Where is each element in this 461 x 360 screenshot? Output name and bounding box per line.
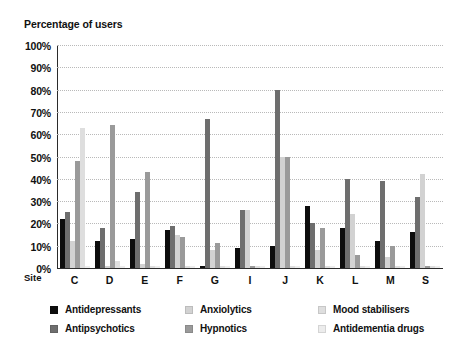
bar-group-i: I bbox=[232, 45, 267, 268]
bar bbox=[155, 266, 160, 268]
bar bbox=[330, 266, 335, 268]
bar-group-m: M bbox=[373, 45, 408, 268]
bars bbox=[127, 45, 162, 268]
y-tick-label: 80% bbox=[31, 85, 51, 97]
x-tick-label: L bbox=[352, 274, 358, 286]
x-tick-label: K bbox=[316, 274, 324, 286]
x-tick-label: J bbox=[282, 274, 288, 286]
bar-chart: Percentage of users 0%10%20%30%40%50%60%… bbox=[0, 0, 461, 360]
x-tick-label: F bbox=[177, 274, 183, 286]
bar-group-e: E bbox=[127, 45, 162, 268]
chart-legend: AntidepressantsAnxiolyticsMood stabilise… bbox=[50, 300, 450, 338]
bars bbox=[408, 45, 443, 268]
bar-group-f: F bbox=[162, 45, 197, 268]
bar bbox=[245, 210, 250, 268]
legend-item[interactable]: Antidepressants bbox=[50, 304, 185, 315]
y-tick-label: 40% bbox=[31, 174, 51, 186]
bar-group-l: L bbox=[338, 45, 373, 268]
bars bbox=[92, 45, 127, 268]
bar bbox=[110, 125, 115, 268]
bar-group-c: C bbox=[57, 45, 92, 268]
plot-area: 0%10%20%30%40%50%60%70%80%90%100% CDEFGI… bbox=[57, 45, 443, 268]
legend-item[interactable]: Mood stabilisers bbox=[318, 304, 450, 315]
legend-swatch-icon bbox=[50, 306, 58, 314]
bar bbox=[285, 157, 290, 269]
bar bbox=[190, 266, 195, 268]
x-tick-label: I bbox=[249, 274, 252, 286]
y-tick-label: 70% bbox=[31, 107, 51, 119]
bar-group-j: J bbox=[268, 45, 303, 268]
bar bbox=[145, 172, 150, 268]
y-tick-label: 60% bbox=[31, 129, 51, 141]
bar bbox=[295, 266, 300, 268]
x-tick-label: C bbox=[71, 274, 79, 286]
legend-item[interactable]: Hypnotics bbox=[185, 323, 318, 334]
bars bbox=[268, 45, 303, 268]
bar bbox=[320, 228, 325, 268]
x-tick-label: M bbox=[386, 274, 395, 286]
x-axis-title: Site bbox=[24, 272, 41, 283]
y-tick-label: 20% bbox=[31, 218, 51, 230]
bar bbox=[260, 266, 265, 268]
bars bbox=[373, 45, 408, 268]
bars bbox=[338, 45, 373, 268]
bar bbox=[435, 266, 440, 268]
bar-group-d: D bbox=[92, 45, 127, 268]
bars bbox=[303, 45, 338, 268]
bar bbox=[215, 243, 220, 268]
y-tick-label: 90% bbox=[31, 62, 51, 74]
legend-swatch-icon bbox=[185, 325, 193, 333]
bars bbox=[232, 45, 267, 268]
bar bbox=[120, 266, 125, 268]
bar bbox=[390, 246, 395, 268]
bar bbox=[420, 174, 425, 268]
x-tick-label: G bbox=[211, 274, 219, 286]
bar bbox=[135, 192, 140, 268]
bar bbox=[365, 266, 370, 268]
y-tick-label: 30% bbox=[31, 196, 51, 208]
y-tick-label: 50% bbox=[31, 152, 51, 164]
bar bbox=[100, 228, 105, 268]
gridline: 0% bbox=[57, 268, 443, 269]
x-tick-label: D bbox=[106, 274, 114, 286]
bar-group-g: G bbox=[197, 45, 232, 268]
legend-label: Mood stabilisers bbox=[333, 304, 410, 315]
bar bbox=[180, 237, 185, 268]
legend-swatch-icon bbox=[318, 306, 326, 314]
y-tick-label: 10% bbox=[31, 241, 51, 253]
bar bbox=[80, 128, 85, 268]
bars bbox=[57, 45, 92, 268]
bar-group-s: S bbox=[408, 45, 443, 268]
legend-swatch-icon bbox=[185, 306, 193, 314]
legend-label: Hypnotics bbox=[200, 323, 247, 334]
y-tick-label: 100% bbox=[25, 40, 51, 52]
y-axis-title: Percentage of users bbox=[24, 18, 122, 30]
bar bbox=[205, 119, 210, 268]
legend-swatch-icon bbox=[318, 325, 326, 333]
bar bbox=[400, 266, 405, 268]
bars bbox=[197, 45, 232, 268]
legend-item[interactable]: Antipsychotics bbox=[50, 323, 185, 334]
legend-label: Antipsychotics bbox=[65, 323, 135, 334]
legend-label: Antidementia drugs bbox=[333, 323, 424, 334]
x-tick-label: S bbox=[422, 274, 429, 286]
legend-swatch-icon bbox=[50, 325, 58, 333]
bar bbox=[380, 181, 385, 268]
bar bbox=[225, 266, 230, 268]
bars bbox=[162, 45, 197, 268]
legend-label: Anxiolytics bbox=[200, 304, 252, 315]
bar bbox=[85, 266, 90, 268]
x-tick-label: E bbox=[141, 274, 148, 286]
legend-item[interactable]: Antidementia drugs bbox=[318, 323, 450, 334]
legend-label: Antidepressants bbox=[65, 304, 141, 315]
bar-group-k: K bbox=[303, 45, 338, 268]
legend-item[interactable]: Anxiolytics bbox=[185, 304, 318, 315]
